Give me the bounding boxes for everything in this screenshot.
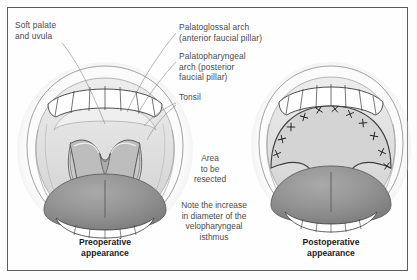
label-palatopharyngeal-arch: Palatopharyngeal arch (posterior faucial… — [179, 51, 246, 83]
label-palatoglossal-arch: Palatoglossal arch (anterior faucial pil… — [179, 22, 262, 43]
label-soft-palate: Soft palate and uvula — [15, 20, 56, 41]
postoperative-oral-cavity — [249, 58, 414, 233]
annotation-area-to-be-resected: Area to be resected — [179, 153, 241, 185]
caption-postoperative: Postoperative appearance — [276, 237, 386, 259]
label-tonsil: Tonsil — [179, 92, 201, 103]
preoperative-oral-cavity — [14, 58, 196, 240]
annotation-note-velopharyngeal-isthmus: Note the increase in diameter of the vel… — [172, 200, 256, 242]
caption-preoperative: Preoperative appearance — [50, 237, 160, 259]
medical-illustration-figure: Soft palate and uvula Palatoglossal arch… — [0, 0, 417, 280]
